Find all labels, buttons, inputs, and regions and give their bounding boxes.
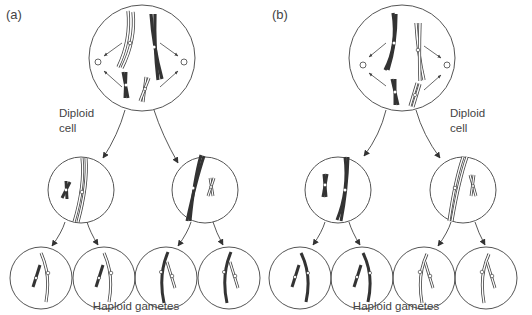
intermediate-cell-b-right (430, 157, 496, 223)
chromosome-long-dark (385, 13, 396, 70)
parent-cell-a (89, 5, 195, 111)
division-arrow (103, 110, 125, 158)
chromosome-long-dark (151, 14, 162, 80)
haploid-gametes-label-b: Haploid gametes (326, 300, 466, 312)
panel-b (269, 5, 517, 309)
intermediate-cell-a-right (172, 155, 238, 223)
centriole-icon (95, 59, 101, 65)
centriole-icon (360, 62, 366, 68)
gamete-a-4 (198, 247, 260, 309)
panel-a (10, 5, 260, 309)
panel-label-b: (b) (272, 7, 288, 22)
intermediate-cell-b-left (305, 157, 371, 223)
diploid-label-line2: cell (450, 121, 485, 136)
meiosis-diagram (0, 0, 532, 315)
gamete-b-1 (269, 247, 331, 309)
centriole-icon (181, 59, 187, 65)
chromosome-short-dark (123, 72, 128, 98)
chromosome-long-light (416, 23, 424, 81)
diploid-cell-label-a: Diploid cell (59, 106, 94, 136)
diploid-label-line2: cell (59, 121, 94, 136)
diploid-label-line1: Diploid (450, 106, 485, 121)
chromosome-short-dark (392, 79, 398, 105)
intermediate-cell-a-left (48, 157, 114, 223)
haploid-gametes-label-a: Haploid gametes (66, 300, 206, 312)
panel-label-a: (a) (6, 7, 22, 22)
gamete-a-1 (10, 247, 72, 309)
parent-cell-b (349, 5, 455, 111)
diploid-cell-label-b: Diploid cell (450, 106, 485, 136)
chromosome-long-light (118, 11, 134, 68)
chromosome-short-light (140, 77, 149, 102)
division-arrow (154, 110, 178, 163)
diploid-label-line1: Diploid (59, 106, 94, 121)
chromosome-short-light (410, 83, 420, 107)
centriole-icon (444, 62, 450, 68)
